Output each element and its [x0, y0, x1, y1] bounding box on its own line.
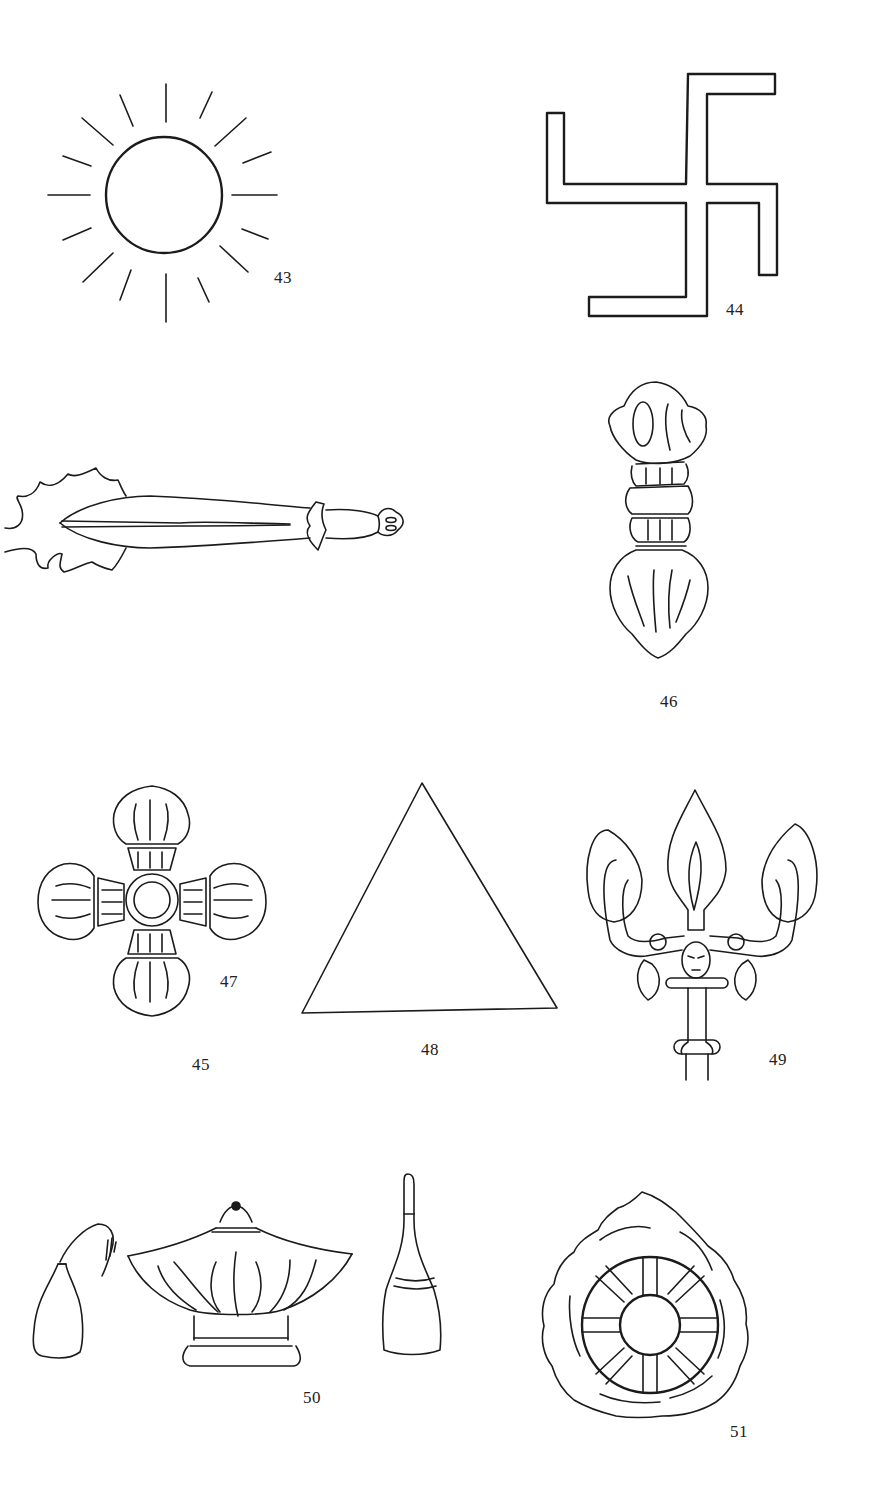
double-vajra-icon: [20, 770, 280, 1030]
figure-47-double-vajra: 47: [20, 770, 280, 1030]
vajra-icon: [580, 370, 730, 720]
figure-43-sun: 43: [0, 0, 320, 340]
trident-icon: [570, 780, 830, 1090]
figure-45-flaming-sword: 45: [0, 460, 430, 630]
flaming-sword-icon: [0, 460, 430, 630]
figure-label: 46: [660, 692, 678, 712]
figure-50-ritual-vessels: 50: [20, 1160, 440, 1420]
figure-46-vajra: 46: [580, 370, 730, 720]
figure-51-dharma-wheel: 51: [530, 1180, 770, 1450]
figure-label: 50: [303, 1388, 321, 1408]
figure-44-swastika: 44: [530, 60, 830, 340]
dharma-wheel-icon: [530, 1180, 770, 1450]
sun-icon: [0, 0, 320, 340]
figure-label: 44: [726, 300, 744, 320]
figure-label: 43: [274, 268, 292, 288]
figure-label: 51: [730, 1422, 748, 1442]
swastika-icon: [530, 60, 830, 340]
figure-49-trident: 49: [570, 780, 830, 1090]
figure-label: 49: [769, 1050, 787, 1070]
figure-label: 47: [220, 972, 238, 992]
triangle-icon: [290, 770, 570, 1070]
figure-label: 48: [421, 1040, 439, 1060]
figure-label: 45: [192, 1055, 210, 1075]
figure-48-triangle: 48: [290, 770, 570, 1070]
ritual-vessels-icon: [20, 1160, 440, 1420]
